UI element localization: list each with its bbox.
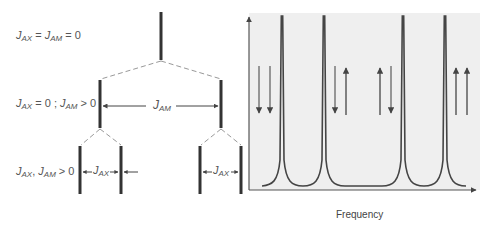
jam-coupling-label: JAM [153,99,171,113]
jax-coupling-label-left: JAX [93,165,109,178]
energy-level-spectrum-figure: JAX = JAM = 0 JAX = 0 ; JAM > 0 JAX, JAM… [0,0,486,227]
x-axis-label: Frequency [336,209,383,220]
row3-label: JAX, JAM > 0 [16,166,74,179]
spectrum-plot [249,13,480,190]
row2-label: JAX = 0 ; JAM > 0 [16,98,96,111]
jax-coupling-label-right: JAX [213,165,229,178]
row1-label: JAX = JAM = 0 [16,30,81,43]
